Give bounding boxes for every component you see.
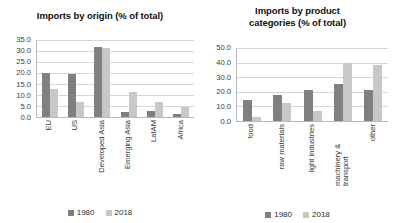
legend-label-2018: 2018 <box>115 208 133 217</box>
bar-2018[interactable] <box>252 117 261 121</box>
bar-groups-origin <box>37 40 194 117</box>
legend-origin: 1980 2018 <box>0 208 200 217</box>
legend-label-2018: 2018 <box>312 210 330 219</box>
bar-group <box>142 40 168 117</box>
y-tick-label: 0.0 <box>20 114 31 122</box>
legend-item-1980[interactable]: 1980 <box>265 210 292 219</box>
x-label-cell: EU <box>36 120 62 190</box>
y-axis-labels-origin: 0.05.010.015.020.025.030.035.0 <box>8 40 34 118</box>
y-tick-label: 5.0 <box>20 103 31 111</box>
x-axis-tick-label: Emerging Asia <box>124 120 132 169</box>
x-label-cell: Developed Asia <box>89 120 115 190</box>
bar-2018[interactable] <box>313 111 322 122</box>
x-axis-labels-product: foodraw materialslight industriesmachine… <box>236 124 388 190</box>
y-tick-label: 0.0 <box>220 118 231 126</box>
y-tick-label: 20.0 <box>16 70 31 78</box>
x-axis-tick-label: Developed Asia <box>98 120 106 173</box>
bar-2018[interactable] <box>343 63 352 121</box>
bar-group <box>237 48 267 121</box>
legend-item-1980[interactable]: 1980 <box>68 208 95 217</box>
chart-panel-imports-by-origin: Imports by origin (% of total) 0.05.010.… <box>0 0 200 223</box>
bar-group <box>297 48 327 121</box>
y-tick-label: 15.0 <box>16 81 31 89</box>
bar-1980[interactable] <box>334 84 343 121</box>
x-label-cell: US <box>62 120 88 190</box>
x-label-cell: other <box>358 124 388 190</box>
bar-group <box>63 40 89 117</box>
bar-1980[interactable] <box>42 73 50 117</box>
chart-title-origin: Imports by origin (% of total) <box>0 10 200 22</box>
chart-title-product-line2: categories (% of total) <box>214 17 381 29</box>
chart-title-product: Imports by product categories (% of tota… <box>200 5 395 28</box>
bar-1980[interactable] <box>273 95 282 121</box>
x-axis-labels-origin: EUUSDeveloped AsiaEmerging AsiaLatAMAfri… <box>36 120 194 190</box>
bar-1980[interactable] <box>121 112 129 117</box>
x-axis-tick-label: LatAM <box>150 120 158 142</box>
bar-group <box>267 48 297 121</box>
x-axis-tick-label: food <box>247 124 255 139</box>
y-tick-label: 10.0 <box>216 103 231 111</box>
x-axis-tick-label: Africa <box>177 120 185 139</box>
bar-1980[interactable] <box>243 100 252 121</box>
legend-item-2018[interactable]: 2018 <box>303 210 330 219</box>
bar-1980[interactable] <box>68 74 76 117</box>
x-axis-tick-label: light industries <box>308 124 316 173</box>
bar-2018[interactable] <box>373 65 382 121</box>
bar-1980[interactable] <box>147 111 155 117</box>
y-tick-label: 35.0 <box>16 36 31 44</box>
bar-2018[interactable] <box>282 103 291 121</box>
x-axis-tick-label: EU <box>45 120 53 131</box>
bar-2018[interactable] <box>181 107 189 117</box>
chart-title-product-line1: Imports by product <box>214 5 381 17</box>
plot-area-product: 0.010.020.030.040.050.0 <box>208 48 388 122</box>
bar-2018[interactable] <box>129 92 137 117</box>
legend-item-2018[interactable]: 2018 <box>106 208 133 217</box>
x-axis-tick-label: machinery & transport <box>334 124 350 186</box>
legend-swatch-icon-1980 <box>68 210 74 216</box>
legend-swatch-icon-2018 <box>303 212 309 218</box>
bar-2018[interactable] <box>50 89 58 117</box>
x-label-cell: Africa <box>168 120 194 190</box>
y-tick-label: 10.0 <box>16 92 31 100</box>
x-label-cell: LatAM <box>141 120 167 190</box>
chart-panel-imports-by-product: Imports by product categories (% of tota… <box>200 0 395 223</box>
bar-group <box>358 48 388 121</box>
legend-swatch-icon-2018 <box>106 210 112 216</box>
y-tick-label: 30.0 <box>16 47 31 55</box>
legend-product: 1980 2018 <box>200 210 395 219</box>
plot-canvas-product <box>236 48 388 122</box>
bar-group <box>328 48 358 121</box>
y-axis-labels-product: 0.010.020.030.040.050.0 <box>208 48 234 122</box>
x-label-cell: light industries <box>297 124 327 190</box>
y-tick-label: 20.0 <box>216 89 231 97</box>
y-tick-label: 30.0 <box>216 74 231 82</box>
bar-2018[interactable] <box>76 102 84 117</box>
bar-groups-product <box>237 48 388 121</box>
x-label-cell: raw materials <box>266 124 296 190</box>
bar-1980[interactable] <box>304 90 313 121</box>
bar-group <box>89 40 115 117</box>
x-label-cell: machinery & transport <box>327 124 357 190</box>
figure-container: Imports by origin (% of total) 0.05.010.… <box>0 0 395 223</box>
y-tick-label: 50.0 <box>216 44 231 52</box>
x-axis-tick-label: raw materials <box>278 124 286 169</box>
x-axis-tick-label: US <box>71 120 79 131</box>
legend-label-1980: 1980 <box>274 210 292 219</box>
bar-1980[interactable] <box>364 90 373 121</box>
y-tick-label: 40.0 <box>216 59 231 67</box>
bar-group <box>116 40 142 117</box>
bar-1980[interactable] <box>94 47 102 117</box>
legend-label-1980: 1980 <box>77 208 95 217</box>
x-axis-tick-label: other <box>369 124 377 141</box>
bar-1980[interactable] <box>173 114 181 117</box>
bar-group <box>168 40 194 117</box>
bar-group <box>37 40 63 117</box>
x-label-cell: Emerging Asia <box>115 120 141 190</box>
y-tick-label: 25.0 <box>16 58 31 66</box>
plot-area-origin: 0.05.010.015.020.025.030.035.0 <box>8 40 194 118</box>
x-label-cell: food <box>236 124 266 190</box>
bar-2018[interactable] <box>102 48 110 117</box>
bar-2018[interactable] <box>155 102 163 117</box>
plot-canvas-origin <box>36 40 194 118</box>
legend-swatch-icon-1980 <box>265 212 271 218</box>
